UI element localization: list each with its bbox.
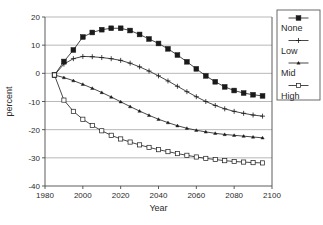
data-point-high-1995 [71,109,75,113]
y-axis-title: percent [4,86,14,117]
legend-marker-high [296,83,300,87]
data-point-high-2025 [128,140,132,144]
data-point-none-2045 [166,46,171,51]
data-point-high-2090 [251,161,255,165]
data-point-high-2010 [100,129,104,133]
y-tick-label-20: 20 [31,13,40,22]
legend: NoneLowMidHigh [277,10,320,101]
data-point-high-2000 [81,117,85,121]
x-tick-label-2040: 2040 [150,191,168,200]
x-tick-label-1980: 1980 [36,191,54,200]
data-point-none-2060 [194,66,199,71]
chart-figure: 20100-10-20-30-40 1980200020202040206020… [0,0,323,225]
data-point-none-2035 [147,37,152,42]
legend-label-mid[interactable]: Mid [281,68,296,78]
data-point-none-2095 [260,93,265,98]
legend-label-none[interactable]: None [281,23,303,33]
x-tick-label-2020: 2020 [112,191,130,200]
data-point-high-2055 [185,153,189,157]
data-point-high-2070 [213,157,217,161]
data-point-none-2025 [128,28,133,33]
data-point-high-2060 [194,155,198,159]
data-point-none-2030 [137,32,142,37]
x-axis-title: Year [149,203,167,213]
y-tick-label--20: -20 [28,126,40,135]
data-point-high-2040 [156,148,160,152]
x-tick-label-2100: 2100 [263,191,281,200]
data-point-none-1995 [71,48,76,53]
legend-marker-none [296,16,301,21]
x-tick-label-2080: 2080 [225,191,243,200]
y-tick-label--40: -40 [28,182,40,191]
data-point-high-2045 [166,150,170,154]
x-tick-label-2000: 2000 [74,191,92,200]
data-point-none-2065 [203,73,208,78]
data-point-high-2005 [90,123,94,127]
line-chart-canvas: 20100-10-20-30-40 1980200020202040206020… [0,0,323,225]
y-tick-label--30: -30 [28,154,40,163]
data-point-high-2095 [260,161,264,165]
data-point-none-2070 [213,79,218,84]
data-point-none-2005 [90,30,95,35]
data-point-none-2000 [80,35,85,40]
data-point-none-2075 [222,84,227,89]
data-point-high-2020 [119,137,123,141]
data-point-high-2015 [109,133,113,137]
data-point-high-2065 [204,156,208,160]
data-point-none-2085 [241,91,246,96]
x-tick-label-2060: 2060 [187,191,205,200]
data-point-high-2085 [242,160,246,164]
data-point-none-2020 [118,26,123,31]
data-point-high-2080 [232,159,236,163]
y-tick-label-10: 10 [31,41,40,50]
legend-label-high[interactable]: High [281,91,300,101]
data-point-high-1985 [52,73,56,77]
data-point-high-2050 [175,152,179,156]
data-point-none-2090 [251,92,256,97]
data-point-none-2010 [99,27,104,32]
data-point-high-2030 [137,143,141,147]
y-tick-label-0: 0 [36,69,41,78]
legend-label-low[interactable]: Low [281,46,298,56]
data-point-high-1990 [62,98,66,102]
data-point-high-2075 [223,159,227,163]
data-point-none-2080 [232,88,237,93]
data-point-none-2055 [184,59,189,64]
data-point-high-2035 [147,145,151,149]
data-point-none-2050 [175,53,180,58]
data-point-none-2040 [156,41,161,46]
y-tick-label--10: -10 [28,98,40,107]
data-point-none-2015 [109,26,114,31]
